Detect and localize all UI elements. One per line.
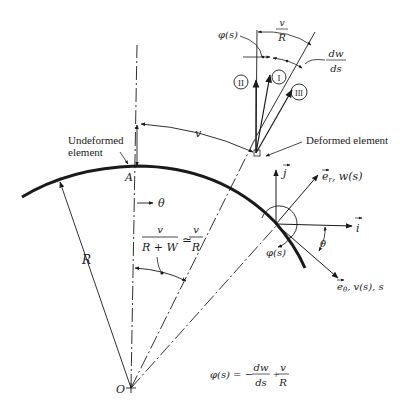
deformed-pointer bbox=[266, 142, 302, 156]
svg-text:R + W: R + W bbox=[141, 241, 179, 254]
angle-fraction-pointer bbox=[157, 257, 162, 273]
center-O-label: O bbox=[116, 383, 125, 396]
angle-fraction: v R + W ≃ v R bbox=[141, 224, 203, 254]
etheta-vector-label: eθ, v(s), s bbox=[337, 281, 384, 294]
circle-III-label: III bbox=[295, 89, 303, 98]
svg-text:ds: ds bbox=[255, 377, 267, 388]
phi-bottom-label: φ(s) bbox=[266, 247, 286, 258]
dw-ds-pointer bbox=[305, 60, 325, 65]
theta-bottom-label: θ bbox=[320, 238, 326, 249]
svg-text:ds: ds bbox=[330, 63, 342, 74]
svg-text:dw: dw bbox=[254, 362, 269, 373]
i-axis-arrow bbox=[276, 224, 352, 226]
deformed-element-label: Deformed element bbox=[306, 134, 388, 146]
undeformed-element-label-line2: element bbox=[68, 146, 103, 158]
er-vector-label: er, w(s) bbox=[322, 170, 363, 184]
svg-text:R: R bbox=[278, 377, 287, 388]
v-arc-label: v bbox=[195, 127, 202, 140]
rotation-circle bbox=[262, 206, 297, 240]
svg-text:R: R bbox=[191, 241, 200, 254]
curved-beam-deformation-diagram: R O A v Undeformed element θ v R + W ≃ v… bbox=[0, 0, 403, 406]
j-vector-label: j bbox=[280, 167, 287, 180]
svg-text:v: v bbox=[193, 224, 199, 235]
radial-lines bbox=[131, 45, 277, 388]
phi-equation: φ(s) = − dw ds + v R bbox=[210, 362, 289, 388]
circle-II-label: II bbox=[238, 78, 244, 88]
undeformed-element-label-line1: Undeformed bbox=[68, 134, 124, 146]
circle-I-label: I bbox=[278, 73, 281, 83]
svg-text:≃: ≃ bbox=[182, 233, 192, 247]
svg-text:v: v bbox=[157, 224, 163, 235]
v-over-R-top-fraction: v R bbox=[276, 18, 288, 43]
er-axis-arrow bbox=[276, 175, 318, 224]
svg-text:φ(s) = −: φ(s) = − bbox=[210, 369, 253, 380]
radial-line-A bbox=[131, 45, 137, 388]
dw-ds-fraction: dw ds bbox=[326, 48, 346, 74]
svg-text:dw: dw bbox=[329, 48, 344, 59]
svg-text:v: v bbox=[279, 18, 284, 28]
undeformed-pointer bbox=[120, 152, 128, 164]
theta-top-label: θ bbox=[158, 197, 165, 210]
radius-R-label: R bbox=[81, 253, 91, 267]
phi-top-pointer bbox=[240, 36, 262, 57]
radius-R-arrow bbox=[60, 182, 131, 388]
phi-top-label: φ(s) bbox=[218, 29, 238, 40]
svg-text:v: v bbox=[280, 362, 286, 373]
i-vector-label: i bbox=[356, 222, 360, 235]
deformed-normal-line bbox=[257, 32, 315, 135]
point-A-label: A bbox=[124, 171, 133, 184]
